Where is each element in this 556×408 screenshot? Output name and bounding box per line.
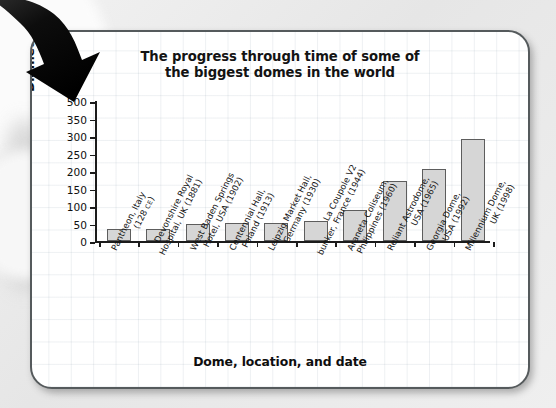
y-axis-tick	[90, 190, 95, 192]
chart-title: The progress through time of some of the…	[32, 49, 528, 80]
y-axis-tick	[90, 137, 95, 139]
y-axis-tick-label: 500	[67, 96, 87, 108]
y-axis-tick-label: 100	[67, 201, 87, 213]
y-axis-tick-label: 150	[67, 184, 87, 196]
x-axis-tick	[178, 242, 180, 247]
y-axis-tick	[90, 120, 95, 122]
x-axis-tick	[99, 242, 101, 247]
y-axis-tick-label: 0	[80, 236, 87, 248]
y-axis-tick-label: 50	[74, 219, 87, 231]
y-axis-tick-label: 300	[67, 131, 87, 143]
y-axis-line	[95, 101, 97, 243]
x-axis-tick	[296, 242, 298, 247]
x-axis-tick	[375, 242, 377, 247]
y-axis-tick-label: 350	[67, 114, 87, 126]
chart-card: The progress through time of some of the…	[30, 30, 530, 389]
plot-area: 500350300250200150100500 Pantheon, Italy…	[95, 102, 489, 242]
y-axis-tick	[90, 225, 95, 227]
y-axis-tick-label: 250	[67, 149, 87, 161]
x-axis-tick	[217, 242, 219, 247]
y-axis-title: Diameter (m)	[30, 30, 37, 92]
y-axis-tick	[90, 172, 95, 174]
chart-title-line-2: the biggest domes in the world	[32, 65, 528, 81]
y-axis-tick	[90, 242, 95, 244]
x-axis-title: Dome, location, and date	[32, 354, 528, 369]
y-axis-tick	[90, 207, 95, 209]
y-axis-tick	[90, 102, 95, 104]
x-axis-tick	[454, 242, 456, 247]
x-axis-tick	[414, 242, 416, 247]
x-axis-tick	[335, 242, 337, 247]
y-axis-tick	[90, 155, 95, 157]
x-axis-tick	[257, 242, 259, 247]
chart-title-line-1: The progress through time of some of	[32, 49, 528, 65]
page-background: The progress through time of some of the…	[0, 0, 556, 408]
x-axis-tick	[138, 242, 140, 247]
x-axis-tick	[493, 242, 495, 247]
y-axis-tick-label: 200	[67, 166, 87, 178]
